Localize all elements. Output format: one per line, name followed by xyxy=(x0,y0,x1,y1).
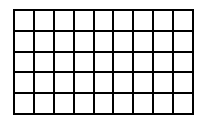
grid-cell xyxy=(133,93,153,114)
grid-cell xyxy=(153,93,173,114)
grid-cell xyxy=(153,52,173,73)
grid-cell xyxy=(94,10,114,31)
grid-cell xyxy=(34,72,54,93)
grid-cell xyxy=(54,31,74,52)
grid-cell xyxy=(153,31,173,52)
grid-cell xyxy=(173,93,193,114)
grid-cell xyxy=(74,10,94,31)
grid-cell xyxy=(74,72,94,93)
grid-cell xyxy=(94,93,114,114)
grid-cell xyxy=(113,52,133,73)
grid-cell xyxy=(153,10,173,31)
grid-cell xyxy=(54,72,74,93)
grid-cell xyxy=(173,52,193,73)
grid-cell xyxy=(113,72,133,93)
grid-cell xyxy=(113,93,133,114)
grid-cell xyxy=(133,10,153,31)
grid-cell xyxy=(34,93,54,114)
grid-cell xyxy=(54,52,74,73)
grid-cell xyxy=(14,10,34,31)
grid-cell xyxy=(173,10,193,31)
grid-cell xyxy=(133,31,153,52)
grid-cell xyxy=(54,10,74,31)
grid-table xyxy=(13,9,194,115)
grid-cell xyxy=(34,10,54,31)
grid-cell xyxy=(14,72,34,93)
grid-cell xyxy=(94,52,114,73)
grid-cell xyxy=(14,93,34,114)
grid-cell xyxy=(153,72,173,93)
grid-cell xyxy=(173,72,193,93)
grid-cell xyxy=(94,31,114,52)
grid-cell xyxy=(113,31,133,52)
grid-cell xyxy=(34,31,54,52)
grid-cell xyxy=(14,31,34,52)
grid-cell xyxy=(34,52,54,73)
grid-cell xyxy=(74,93,94,114)
grid-cell xyxy=(173,31,193,52)
grid-cell xyxy=(94,72,114,93)
grid-cell xyxy=(54,93,74,114)
grid-cell xyxy=(133,52,153,73)
grid-cell xyxy=(113,10,133,31)
grid-cell xyxy=(14,52,34,73)
grid-cell xyxy=(74,52,94,73)
grid-cell xyxy=(74,31,94,52)
grid-cell xyxy=(133,72,153,93)
